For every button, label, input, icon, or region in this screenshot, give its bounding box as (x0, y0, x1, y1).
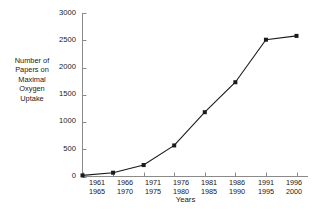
data-point-4 (203, 110, 207, 114)
y-axis-ticks (83, 14, 87, 178)
x-axis-title-text: Years (176, 195, 196, 204)
data-point-7 (295, 34, 299, 38)
x-axis-ticks (84, 173, 298, 177)
x-tick-label-7-top: 1996 (277, 178, 311, 187)
data-point-0 (81, 173, 85, 177)
data-point-2 (142, 163, 146, 167)
series-markers (81, 34, 299, 178)
data-point-1 (111, 171, 115, 175)
series-line (83, 36, 297, 176)
data-point-6 (264, 38, 268, 42)
chart-figure: Number of Papers on Maximal Oxygen Uptak… (0, 0, 315, 217)
x-tick-label-7: 1996 2000 (277, 178, 311, 196)
data-point-5 (233, 80, 237, 84)
data-point-3 (172, 143, 176, 147)
x-axis-title: Years (0, 195, 315, 204)
